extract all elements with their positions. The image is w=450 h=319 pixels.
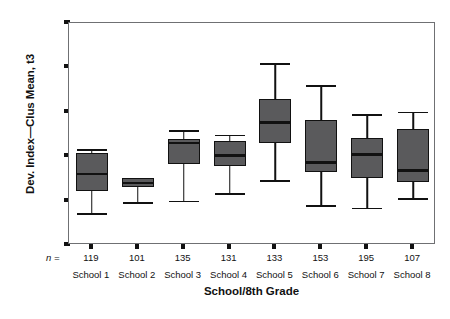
x-axis-title: School/8th Grade xyxy=(68,285,435,297)
x-tick-mark xyxy=(272,244,276,249)
x-tick-mark xyxy=(181,244,185,249)
median-line xyxy=(397,169,429,172)
x-tick-mark xyxy=(410,244,414,249)
x-tick-mark xyxy=(364,244,368,249)
x-tick-n-value: 107 xyxy=(382,252,442,263)
upper-whisker-stem xyxy=(412,112,414,129)
upper-whisker-cap xyxy=(398,112,428,114)
y-axis-title: Dev. Index—Clus Mean, t3 xyxy=(24,9,36,239)
x-tick-mark xyxy=(318,244,322,249)
n-equals-label: n = xyxy=(46,252,59,263)
x-tick-mark xyxy=(89,244,93,249)
x-tick-mark xyxy=(135,244,139,249)
x-tick-category-label: School 8 xyxy=(377,269,447,280)
lower-whisker-stem xyxy=(412,182,414,198)
plot-area xyxy=(68,22,435,244)
x-tick-mark xyxy=(227,244,231,249)
box-rect xyxy=(397,129,429,182)
box-plot-glyph xyxy=(69,23,436,245)
box-plot-figure: Dev. Index—Clus Mean, t3 1.51.00.50.0-.0… xyxy=(0,0,450,319)
lower-whisker-cap xyxy=(398,198,428,200)
